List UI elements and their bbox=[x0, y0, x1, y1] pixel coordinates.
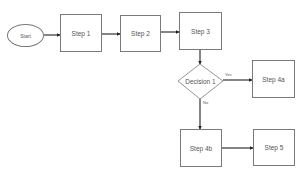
step4a-node: Step 4a bbox=[252, 60, 295, 98]
yes-edge-label: Yes bbox=[225, 72, 232, 77]
start-node: Start bbox=[7, 24, 44, 47]
step5-label: Step 5 bbox=[265, 144, 284, 151]
step1-label: Step 1 bbox=[72, 30, 91, 37]
flowchart-canvas: Start Step 1 Step 2 Step 3 Decision 1 Ye… bbox=[0, 0, 302, 179]
decision1-node: Decision 1 bbox=[178, 64, 223, 99]
step3-node: Step 3 bbox=[179, 12, 222, 50]
start-label: Start bbox=[20, 33, 31, 39]
step2-label: Step 2 bbox=[131, 30, 150, 37]
step1-node: Step 1 bbox=[60, 14, 102, 52]
decision1-label: Decision 1 bbox=[185, 78, 215, 85]
step3-label: Step 3 bbox=[191, 28, 210, 35]
step5-node: Step 5 bbox=[253, 129, 295, 166]
step4a-label: Step 4a bbox=[262, 76, 284, 83]
no-edge-label: No bbox=[203, 100, 208, 105]
step2-node: Step 2 bbox=[120, 15, 161, 52]
step4b-node: Step 4b bbox=[180, 129, 222, 167]
step4b-label: Step 4b bbox=[190, 145, 212, 152]
